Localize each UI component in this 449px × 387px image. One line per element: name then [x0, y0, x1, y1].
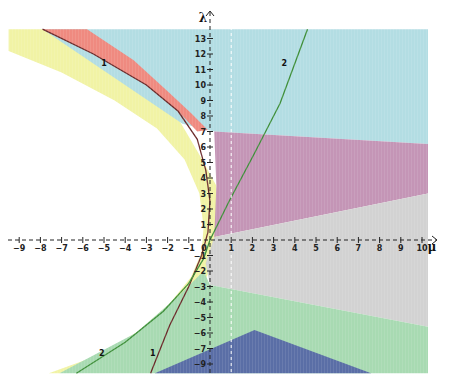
- x-tick-label: −2: [161, 244, 173, 253]
- y-tick-label: 2: [200, 205, 206, 214]
- y-tick-label: 3: [200, 190, 206, 199]
- x-tick-label: −6: [77, 244, 90, 253]
- x-tick-label: −5: [98, 244, 111, 253]
- y-tick-label: 6: [200, 143, 206, 152]
- x-tick-label: −9: [13, 244, 26, 253]
- y-tick-label: 1: [200, 221, 206, 230]
- y-tick-label: 7: [200, 128, 206, 137]
- y-tick-label: −3: [194, 283, 206, 292]
- x-tick-label: −4: [119, 244, 132, 253]
- y-tick-label: −9: [194, 360, 207, 369]
- x-tick-label: 5: [313, 244, 319, 253]
- y-tick-label: 8: [200, 112, 206, 121]
- y-tick-label: 9: [200, 97, 206, 106]
- y-tick-label: −6: [194, 329, 207, 338]
- y-tick-label: 10: [195, 81, 207, 90]
- stability-region-chart: −9−8−7−6−5−4−3−2−112345678910−9−7−6−5−4−…: [0, 0, 449, 387]
- y-tick-label: 12: [195, 50, 206, 59]
- x-tick-label: 6: [334, 244, 340, 253]
- x-tick-label: 10: [416, 244, 428, 253]
- hatch-texture: [0, 27, 428, 374]
- x-tick-label: 8: [377, 244, 383, 253]
- y-tick-label: −5: [194, 314, 207, 323]
- x-tick-label: 2: [250, 244, 256, 253]
- curve-label-1: 1: [150, 349, 156, 358]
- x-tick-label: 3: [271, 244, 277, 253]
- curve-label-2: 2: [281, 59, 287, 68]
- y-tick-label: −2: [194, 267, 206, 276]
- y-tick-label: −4: [194, 298, 207, 307]
- x-tick-label: −7: [55, 244, 67, 253]
- x-tick-label: 4: [292, 244, 298, 253]
- y-tick-label: 5: [200, 159, 206, 168]
- y-tick-label: 13: [195, 35, 206, 44]
- x-tick-label: −3: [140, 244, 152, 253]
- x-tick-label: 9: [398, 244, 404, 253]
- x-tick-label: 1: [228, 244, 234, 253]
- y-axis-title: λ: [199, 11, 207, 25]
- x-tick-label: 7: [356, 244, 362, 253]
- x-axis-title: μ: [428, 240, 437, 254]
- curve-label-2: 2: [99, 349, 105, 358]
- origin-label: 0: [201, 244, 207, 253]
- y-tick-label: 11: [195, 66, 207, 75]
- x-tick-label: −8: [34, 244, 47, 253]
- y-tick-label: −7: [194, 345, 206, 354]
- y-tick-label: 4: [200, 174, 206, 183]
- curve-label-1: 1: [101, 59, 107, 68]
